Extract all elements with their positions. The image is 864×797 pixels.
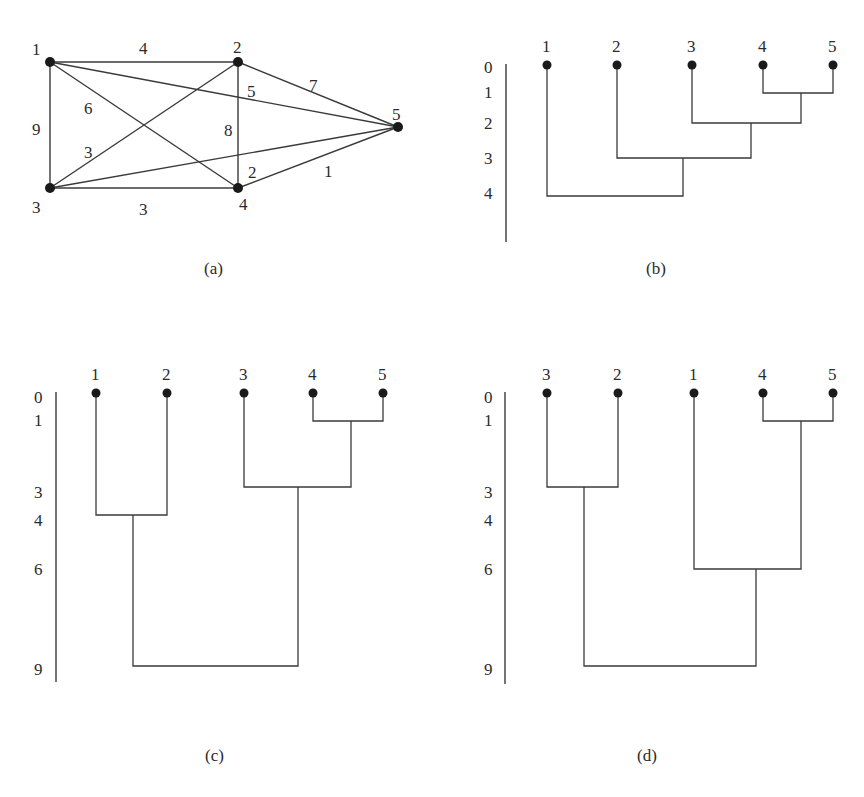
axis-tick-label: 0 xyxy=(484,388,493,407)
leaf-node xyxy=(543,389,552,398)
merge-1-2 xyxy=(96,393,167,515)
node-label: 3 xyxy=(32,198,41,217)
leaf-label: 4 xyxy=(758,37,767,56)
axis-tick-label: 0 xyxy=(484,58,493,77)
leaf-node xyxy=(829,389,838,398)
leaf-label: 1 xyxy=(542,37,551,56)
leaf-node xyxy=(240,389,249,398)
leaf-label: 4 xyxy=(758,365,767,384)
edge-weight: 9 xyxy=(32,120,41,139)
leaf-node xyxy=(543,61,552,70)
merge-4-5 xyxy=(313,393,383,421)
axis-tick-label: 4 xyxy=(34,511,43,530)
leaf-label: 2 xyxy=(162,365,171,384)
leaf-node xyxy=(163,389,172,398)
caption-b: (b) xyxy=(646,259,666,278)
merge-4-5 xyxy=(763,65,833,93)
node-label: 2 xyxy=(233,38,242,57)
edge-4-5 xyxy=(238,127,398,188)
axis-tick-label: 3 xyxy=(34,483,43,502)
leaf-label: 1 xyxy=(689,365,698,384)
axis-tick-label: 0 xyxy=(34,388,43,407)
edge-weight: 5 xyxy=(247,82,256,101)
caption-a: (a) xyxy=(204,259,223,278)
node-label: 5 xyxy=(392,105,401,124)
leaf-label: 2 xyxy=(612,37,621,56)
leaf-node xyxy=(688,61,697,70)
edge-weight: 4 xyxy=(139,39,148,58)
axis-tick-label: 2 xyxy=(484,114,493,133)
edge-weight: 6 xyxy=(84,99,93,118)
axis-tick-label: 6 xyxy=(484,560,493,579)
leaf-node xyxy=(92,389,101,398)
merge-1-2345 xyxy=(547,65,683,196)
leaf-label: 3 xyxy=(239,365,248,384)
edge-weight: 8 xyxy=(224,121,233,140)
figure-canvas: 1 2 3 4 5 4 9 6 5 3 8 7 3 2 1 (a) 0 1 2 … xyxy=(0,0,864,797)
edge-weight: 1 xyxy=(324,162,333,181)
leaf-label: 2 xyxy=(613,365,622,384)
merge-3-45 xyxy=(244,393,351,487)
leaf-label: 3 xyxy=(542,365,551,384)
node-label: 1 xyxy=(32,40,41,59)
caption-d: (d) xyxy=(637,746,657,765)
caption-c: (c) xyxy=(205,746,224,765)
leaf-label: 5 xyxy=(828,37,837,56)
axis-tick-label: 6 xyxy=(34,560,43,579)
leaf-node xyxy=(829,61,838,70)
leaf-node xyxy=(759,61,768,70)
axis-tick-label: 3 xyxy=(484,483,493,502)
axis-tick-label: 1 xyxy=(34,411,43,430)
edge-2-5 xyxy=(238,62,398,127)
axis-tick-label: 4 xyxy=(484,184,493,203)
merge-4-5 xyxy=(763,393,833,421)
dendrogram-b: 0 1 2 3 4 1 2 3 4 5 (b) xyxy=(484,37,838,278)
axis-tick-label: 3 xyxy=(484,149,493,168)
merge-3-45 xyxy=(692,65,801,123)
leaf-label: 1 xyxy=(91,365,100,384)
edge-weight: 7 xyxy=(309,76,318,95)
merge-1-45 xyxy=(694,393,801,569)
graph-node xyxy=(233,183,243,193)
node-label: 4 xyxy=(239,195,248,214)
edge-weight: 3 xyxy=(139,200,148,219)
leaf-node xyxy=(309,389,318,398)
axis-tick-label: 4 xyxy=(484,511,493,530)
axis-tick-label: 9 xyxy=(34,660,43,679)
graph-a: 1 2 3 4 5 4 9 6 5 3 8 7 3 2 1 (a) xyxy=(32,38,403,278)
leaf-label: 5 xyxy=(378,365,387,384)
leaf-label: 4 xyxy=(308,365,317,384)
leaf-node xyxy=(379,389,388,398)
edge-weight: 3 xyxy=(84,143,93,162)
graph-node xyxy=(45,183,55,193)
dendrogram-c: 0 1 3 4 6 9 1 2 3 4 5 (c) xyxy=(34,365,388,765)
leaf-node xyxy=(690,389,699,398)
leaf-label: 5 xyxy=(828,365,837,384)
leaf-node xyxy=(614,389,623,398)
merge-2-345 xyxy=(617,65,751,158)
merge-12-345 xyxy=(133,487,298,666)
graph-node xyxy=(233,57,243,67)
merge-3-2 xyxy=(547,393,618,487)
leaf-node xyxy=(613,61,622,70)
axis-tick-label: 9 xyxy=(484,660,493,679)
axis-tick-label: 1 xyxy=(484,411,493,430)
merge-32-145 xyxy=(584,487,756,666)
leaf-label: 3 xyxy=(687,37,696,56)
leaf-node xyxy=(759,389,768,398)
axis-tick-label: 1 xyxy=(484,83,493,102)
dendrogram-d: 0 1 3 4 6 9 3 2 1 4 5 (d) xyxy=(484,365,838,765)
edge-weight: 2 xyxy=(248,163,257,182)
graph-node xyxy=(45,57,55,67)
